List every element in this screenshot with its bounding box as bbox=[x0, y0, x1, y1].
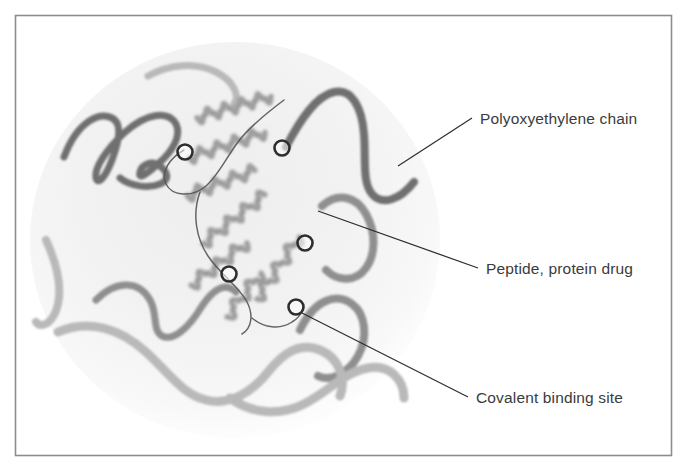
label-peptide-protein-drug: Peptide, protein drug bbox=[486, 260, 633, 277]
covalent-binding-site-marker bbox=[289, 300, 304, 315]
covalent-binding-site-marker bbox=[298, 236, 313, 251]
figure-root: Polyoxyethylene chainPeptide, protein dr… bbox=[0, 0, 695, 476]
covalent-binding-site-marker bbox=[222, 267, 237, 282]
label-polyoxyethylene-chain: Polyoxyethylene chain bbox=[480, 110, 637, 127]
covalent-binding-site-marker bbox=[178, 145, 193, 160]
label-covalent-binding-site: Covalent binding site bbox=[476, 389, 623, 406]
covalent-binding-site-marker bbox=[275, 141, 290, 156]
pegylation-diagram: Polyoxyethylene chainPeptide, protein dr… bbox=[0, 0, 695, 476]
